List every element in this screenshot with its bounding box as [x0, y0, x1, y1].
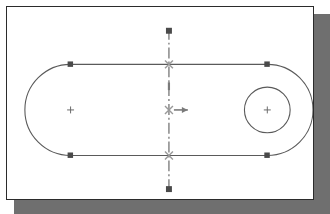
slot-left-arc[interactable] [25, 64, 71, 155]
cad-screenshot [0, 0, 330, 214]
drawing-area-window[interactable] [6, 6, 314, 200]
grip-centerline-bottom[interactable] [166, 186, 172, 192]
center-mark-left-arc [67, 106, 74, 113]
grip-top-line-right[interactable] [264, 61, 269, 66]
drawing-canvas[interactable] [7, 7, 313, 199]
polar-tracking-arrow [174, 107, 188, 113]
grip-bottom-line-right[interactable] [264, 152, 269, 157]
grip-top-line-left[interactable] [68, 61, 73, 66]
center-mark-right-bore [264, 106, 271, 113]
grip-centerline-top[interactable] [166, 28, 172, 34]
grip-bottom-line-left[interactable] [68, 152, 73, 157]
